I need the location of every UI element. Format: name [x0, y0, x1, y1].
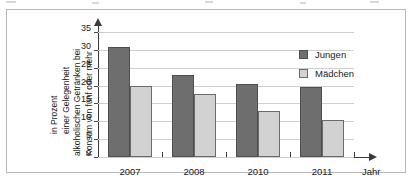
bar-jungen-2008	[172, 75, 194, 158]
bar-mädchen-2011	[322, 120, 344, 158]
bar-group: 2010	[226, 32, 290, 157]
bar-jungen-2011	[300, 87, 322, 157]
legend-swatch-maedchen	[299, 69, 308, 78]
scan-artifact-mark	[370, 1, 379, 3]
scan-artifact-mark	[92, 2, 99, 4]
chart-frame: Konsum von fünf oder mehr alkoholischen …	[6, 9, 406, 173]
y-axis-tick	[94, 157, 98, 158]
gridline	[98, 157, 354, 158]
y-axis-tick-label: 25	[81, 64, 91, 65]
y-axis-tick-label: 5	[86, 135, 91, 136]
legend-swatch-jungen	[299, 50, 308, 59]
y-axis-tick-label: 20	[81, 82, 91, 83]
legend-label-jungen: Jungen	[315, 49, 346, 60]
y-axis-title-line-4: in Prozent	[49, 96, 61, 134]
bar-mädchen-2010	[258, 111, 280, 157]
chart-legend: Jungen Mädchen	[299, 49, 354, 79]
bar-group: 2008	[162, 32, 226, 157]
legend-item-maedchen: Mädchen	[299, 68, 354, 79]
x-axis-tick-label: 2011	[290, 166, 354, 177]
bar-mädchen-2008	[194, 94, 216, 157]
legend-label-maedchen: Mädchen	[315, 68, 354, 79]
y-axis-tick-label: 30	[81, 46, 91, 47]
legend-item-jungen: Jungen	[299, 49, 354, 60]
bar-jungen-2007	[108, 47, 130, 157]
bar-group: 2007	[98, 32, 162, 157]
y-axis-tick-label: 10	[81, 117, 91, 118]
y-axis-tick-label: 35	[81, 28, 91, 29]
scan-artifact-mark	[205, 1, 213, 3]
scan-artifact-mark	[6, 1, 16, 3]
y-axis-title-line-3: einer Gelegenheit	[61, 67, 73, 134]
x-axis-tick-label: 2010	[226, 166, 290, 177]
x-axis-title: Jahr	[362, 166, 380, 177]
x-axis-tick-label: 2008	[162, 166, 226, 177]
y-axis-tick-label: 0	[86, 153, 91, 154]
bar-mädchen-2007	[130, 86, 152, 157]
x-axis-tick-label: 2007	[98, 166, 162, 177]
scan-artifact-mark	[300, 2, 306, 4]
x-axis-arrow-icon	[369, 153, 377, 161]
scan-artifacts	[0, 0, 414, 8]
y-axis-arrow-icon	[94, 18, 102, 26]
x-axis-tick	[354, 152, 355, 157]
y-axis-tick-label: 15	[81, 99, 91, 100]
bar-jungen-2010	[236, 84, 258, 157]
